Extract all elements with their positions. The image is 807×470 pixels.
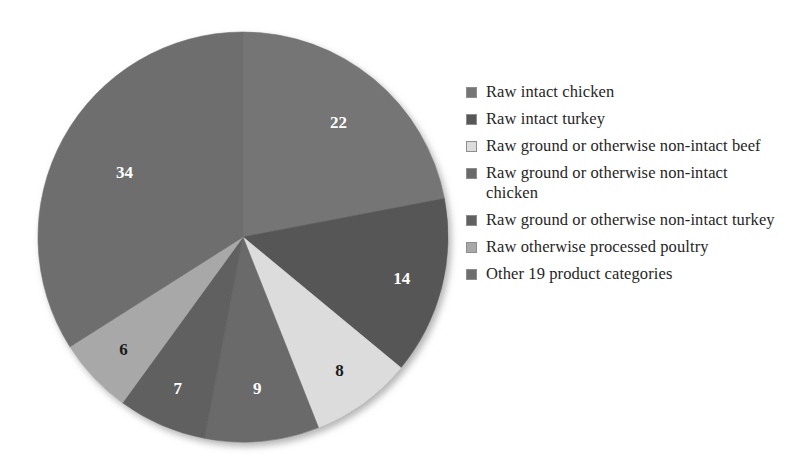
pie-slice-value-label: 7 xyxy=(174,379,183,398)
pie-slice-value-label: 9 xyxy=(253,379,262,398)
chart-legend: Raw intact chickenRaw intact turkeyRaw g… xyxy=(466,82,796,291)
pie-slice-value-label: 34 xyxy=(116,163,134,182)
legend-item[interactable]: Raw otherwise processed poultry xyxy=(466,237,796,257)
legend-swatch-icon xyxy=(466,87,477,98)
legend-item-label: Raw intact chicken xyxy=(486,82,614,102)
legend-item[interactable]: Raw intact turkey xyxy=(466,109,796,129)
pie-slice-value-label: 22 xyxy=(330,113,347,132)
legend-swatch-icon xyxy=(466,168,477,179)
legend-item[interactable]: Other 19 product categories xyxy=(466,264,796,284)
pie-slice-value-label: 14 xyxy=(393,269,411,288)
legend-item-label: Raw otherwise processed poultry xyxy=(486,237,709,257)
pie-svg: 2214897634 xyxy=(0,0,470,470)
legend-item-label: Raw intact turkey xyxy=(486,109,605,129)
legend-item[interactable]: Raw ground or otherwise non-intact beef xyxy=(466,136,796,156)
legend-swatch-icon xyxy=(466,242,477,253)
pie-slice-value-label: 6 xyxy=(119,340,128,359)
legend-swatch-icon xyxy=(466,141,477,152)
pie-plot-area: 2214897634 xyxy=(0,0,470,470)
pie-slice-value-label: 8 xyxy=(335,361,344,380)
legend-item[interactable]: Raw ground or otherwise non-intact turke… xyxy=(466,210,796,230)
legend-item-label: Raw ground or otherwise non-intact beef xyxy=(486,136,761,156)
legend-item-label: Raw ground or otherwise non-intact turke… xyxy=(486,210,775,230)
pie-slices-group xyxy=(38,32,448,442)
legend-swatch-icon xyxy=(466,114,477,125)
legend-swatch-icon xyxy=(466,269,477,280)
legend-item-label: Raw ground or otherwise non-intact chick… xyxy=(486,163,778,203)
legend-item[interactable]: Raw intact chicken xyxy=(466,82,796,102)
legend-item[interactable]: Raw ground or otherwise non-intact chick… xyxy=(466,163,796,203)
legend-item-label: Other 19 product categories xyxy=(486,264,672,284)
legend-swatch-icon xyxy=(466,215,477,226)
pie-chart-figure: 2214897634 Raw intact chickenRaw intact … xyxy=(0,0,807,470)
